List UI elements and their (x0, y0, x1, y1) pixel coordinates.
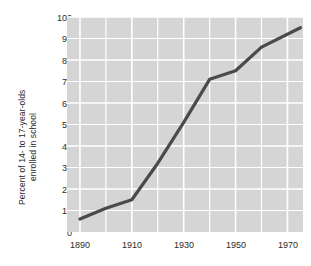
enrollment-line-chart: Percent of 14- to 17-year-olds enrolled … (0, 0, 311, 266)
plot-area (0, 0, 311, 266)
